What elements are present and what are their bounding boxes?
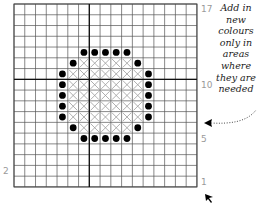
cross-stitch — [134, 102, 142, 110]
stitch-dot — [113, 49, 120, 56]
cross-stitch — [80, 113, 88, 121]
cross-stitch — [91, 91, 99, 99]
stitch-dot — [134, 124, 141, 131]
stitch-dot — [145, 71, 152, 78]
stitch-dot — [124, 49, 131, 56]
cross-stitch — [101, 113, 109, 121]
stitch-dot — [145, 103, 152, 110]
cross-stitch — [123, 113, 131, 121]
cross-stitch — [80, 102, 88, 110]
cross-stitch — [101, 102, 109, 110]
cross-stitch — [101, 124, 109, 132]
cross-stitch — [134, 81, 142, 89]
stitch-dot — [59, 71, 66, 78]
stitch-dot — [59, 92, 66, 99]
cross-stitch — [69, 70, 77, 78]
stitch-dot — [145, 81, 152, 88]
stitch-dot — [134, 60, 141, 67]
stitch-dot — [102, 49, 109, 56]
cross-stitch — [134, 70, 142, 78]
cross-stitch — [91, 70, 99, 78]
cross-stitch — [112, 81, 120, 89]
cross-stitch — [101, 70, 109, 78]
cross-stitch — [101, 81, 109, 89]
row-label: 10 — [201, 81, 212, 90]
annotation-line: where — [214, 60, 258, 72]
row-label: 1 — [201, 178, 207, 187]
stitch-dot — [70, 60, 77, 67]
annotation-line: only in — [214, 37, 258, 49]
annotation-note: Add in new colours only in areas where t… — [214, 2, 258, 95]
cross-stitch — [80, 91, 88, 99]
annotation-line: they are — [214, 72, 258, 84]
cross-stitch-chart: 1710512 Add in new colours only in areas… — [0, 0, 258, 204]
cross-stitch — [101, 59, 109, 67]
cursor-arrow-icon — [205, 194, 213, 203]
cross-stitch — [112, 59, 120, 67]
cross-stitch — [123, 91, 131, 99]
cross-stitch — [80, 81, 88, 89]
stitch-dot — [145, 114, 152, 121]
cross-stitch — [91, 59, 99, 67]
cross-stitch — [112, 124, 120, 132]
cross-stitch — [112, 113, 120, 121]
stitch-dot — [113, 135, 120, 142]
cross-stitch — [80, 59, 88, 67]
row-label: 17 — [201, 5, 212, 14]
cross-stitch — [69, 81, 77, 89]
annotation-line: needed — [214, 83, 258, 95]
stitch-dot — [59, 81, 66, 88]
cross-stitch — [91, 124, 99, 132]
stitch-dot — [70, 124, 77, 131]
cross-stitch — [80, 70, 88, 78]
cross-stitch — [123, 124, 131, 132]
cross-stitch — [112, 70, 120, 78]
stitch-dot — [91, 135, 98, 142]
annotation-line: Add in — [214, 2, 258, 14]
cross-stitch — [123, 59, 131, 67]
cross-stitch — [134, 91, 142, 99]
annotation-line: new — [214, 14, 258, 26]
annotation-line: colours — [214, 25, 258, 37]
cross-stitch — [123, 70, 131, 78]
cross-stitch — [101, 91, 109, 99]
cross-stitch — [80, 124, 88, 132]
cross-stitch — [69, 102, 77, 110]
cross-stitch — [69, 91, 77, 99]
stitch-dot — [91, 49, 98, 56]
cross-stitch — [69, 113, 77, 121]
cross-stitch — [91, 102, 99, 110]
annotation-line: areas — [214, 48, 258, 60]
cross-stitch — [91, 113, 99, 121]
stitch-dot — [81, 49, 88, 56]
row-label: 2 — [3, 167, 9, 176]
stitch-dot — [124, 135, 131, 142]
cross-stitch — [112, 91, 120, 99]
cross-stitch — [112, 102, 120, 110]
stitch-dot — [102, 135, 109, 142]
cross-stitch — [91, 81, 99, 89]
row-label: 5 — [201, 135, 207, 144]
cross-stitch — [134, 113, 142, 121]
cross-stitches — [69, 59, 142, 132]
stitch-dot — [59, 114, 66, 121]
cross-stitch — [123, 102, 131, 110]
stitch-dot — [81, 135, 88, 142]
stitch-dot — [145, 92, 152, 99]
cross-stitch — [123, 81, 131, 89]
stitch-dot — [59, 103, 66, 110]
dotted-arrow-icon — [204, 110, 256, 127]
